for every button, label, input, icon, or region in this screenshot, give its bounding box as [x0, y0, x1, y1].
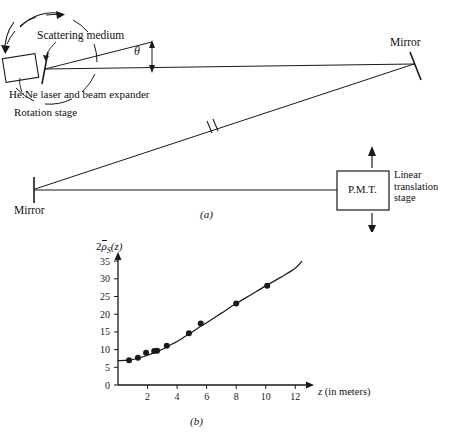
figure-root: Scattering medium He:Ne laser and beam e…: [0, 0, 449, 435]
panel-a-label: (a): [200, 208, 213, 220]
rotation-arrow-left: [1, 22, 14, 54]
linear-stage-line-2: translation: [394, 181, 438, 193]
panel-b-chart: 0510152025303524681012: [0, 240, 449, 425]
chart-axes: [115, 252, 315, 389]
data-point: [154, 348, 160, 354]
label-scattering-medium: Scattering medium: [37, 29, 124, 41]
label-pmt: P.M.T.: [348, 183, 377, 195]
data-point: [233, 301, 239, 307]
label-rotation-stage: Rotation stage: [14, 106, 77, 118]
label-laser: He:Ne laser and beam expander: [9, 88, 150, 100]
chart-fit-curve: [118, 261, 302, 360]
chart-tick-marks: [114, 261, 295, 389]
y-tick-label: 25: [100, 291, 110, 302]
data-point: [264, 283, 270, 289]
data-point: [143, 350, 149, 356]
x-tick-label: 2: [145, 391, 150, 402]
x-tick-label: 10: [261, 391, 271, 402]
chart-x-axis-label: z (in meters): [318, 386, 371, 397]
x-label-unit: (in meters): [325, 386, 371, 397]
linear-stage-line-1: Linear: [394, 169, 438, 181]
y-tick-label: 35: [100, 256, 110, 267]
label-linear-translation-stage: Linear translation stage: [394, 169, 438, 204]
x-tick-label: 4: [175, 391, 180, 402]
y-tick-label: 15: [100, 326, 110, 337]
y-label-argument: (z): [111, 240, 123, 252]
beam-diagonal: [35, 64, 414, 189]
x-tick-label: 6: [204, 391, 209, 402]
y-tick-label: 0: [105, 380, 110, 391]
x-tick-label: 12: [290, 391, 300, 402]
chart-y-axis-label: 2ρS(z): [96, 240, 122, 255]
data-point: [198, 320, 204, 326]
y-tick-label: 10: [100, 344, 110, 355]
label-mirror-top: Mirror: [390, 36, 421, 48]
label-theta: θ: [134, 44, 140, 59]
x-label-variable: z: [318, 386, 322, 397]
y-tick-label: 5: [105, 362, 110, 373]
data-point: [164, 343, 170, 349]
x-tick-label: 8: [234, 391, 239, 402]
label-mirror-bottom: Mirror: [14, 204, 45, 216]
chart-data-points: [126, 283, 270, 363]
linear-stage-line-3: stage: [394, 192, 438, 204]
chart-tick-labels: 0510152025303524681012: [100, 256, 300, 402]
data-point: [135, 355, 141, 361]
beam-horizontal: [45, 64, 414, 69]
laser-box: [2, 54, 38, 83]
data-point: [126, 357, 132, 363]
data-point: [186, 330, 192, 336]
y-tick-label: 20: [100, 309, 110, 320]
scattering-medium-arrowhead: [43, 55, 49, 61]
mirror-top-right: [410, 52, 421, 80]
rotation-arrow-top: [20, 11, 65, 27]
y-tick-label: 30: [100, 273, 110, 284]
panel-b-label: (b): [190, 415, 203, 427]
